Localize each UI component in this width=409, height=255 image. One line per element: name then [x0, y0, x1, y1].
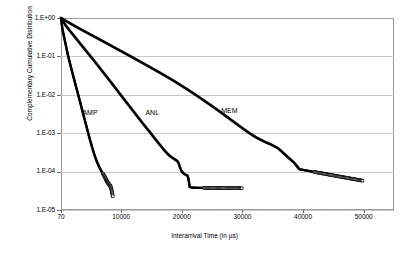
x-axis-tick-label: 40000	[294, 213, 312, 220]
chart-container: Complementary Cumulative Distribution In…	[0, 0, 409, 255]
y-axis-tick-label: 1.E-03	[9, 130, 55, 137]
data-point	[241, 187, 244, 190]
data-point	[361, 179, 364, 182]
x-axis-tick-label: 70	[57, 213, 64, 220]
x-axis-tick-label: 30000	[233, 213, 251, 220]
x-axis-tick-label: 10000	[112, 213, 130, 220]
y-axis-tick-label: 1.E-02	[9, 92, 55, 99]
series-label-mem: MEM	[221, 107, 237, 114]
data-point	[111, 195, 114, 198]
data-series-mem	[60, 17, 364, 182]
y-axis-tick-label: 1.E+00	[9, 15, 55, 22]
y-axis-tick-label: 1.E-05	[9, 207, 55, 214]
series-label-anl: ANL	[145, 109, 159, 116]
x-axis-title: Interarrival Time (in µs)	[0, 232, 409, 239]
x-axis-tick-label: 50000	[355, 213, 373, 220]
y-axis-tick-label: 1.E-04	[9, 168, 55, 175]
x-axis-tick-label: 20000	[173, 213, 191, 220]
y-axis-tick-label: 1.E-01	[9, 53, 55, 60]
series-label-amp: AMP	[82, 109, 97, 116]
data-series-anl	[60, 17, 243, 190]
